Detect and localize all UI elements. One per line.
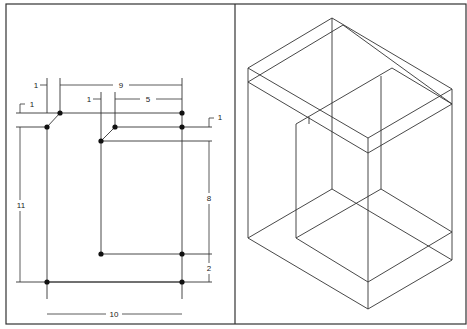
isometric-edge (332, 189, 452, 260)
isometric-edge (248, 238, 368, 309)
dimension-label: 1 (34, 81, 39, 90)
dimension-label: 11 (17, 201, 26, 210)
isometric-edge (368, 232, 452, 282)
drawing-frame (6, 4, 466, 324)
isometric-edge (392, 68, 452, 104)
dimension-label: 8 (207, 194, 212, 203)
dimension-label: 5 (146, 95, 151, 104)
dimension-label: 1 (87, 95, 92, 104)
vertex-dot (44, 279, 49, 284)
contour-line (101, 127, 115, 141)
dimension-label: 1 (30, 100, 35, 109)
dimension-label: 2 (207, 264, 212, 273)
vertex-dot (98, 138, 103, 143)
drawing-canvas: 951011821111 (0, 0, 467, 329)
vertex-dot (57, 110, 62, 115)
isometric-edge (296, 238, 368, 282)
vertex-dot (179, 279, 184, 284)
isometric-edge (248, 68, 368, 138)
isometric-edge (381, 189, 452, 232)
isometric-edge (248, 18, 332, 68)
dimension-label: 1 (218, 113, 223, 122)
isometric-view-panel (248, 18, 452, 309)
vertex-dot (44, 124, 49, 129)
vertex-dot (98, 251, 103, 256)
isometric-edge (296, 68, 392, 124)
vertex-dot (179, 110, 184, 115)
isometric-edge (248, 25, 343, 82)
contour-line (47, 113, 60, 127)
isometric-edge (368, 260, 452, 309)
dimension-label: 9 (119, 81, 124, 90)
vertex-dot (112, 124, 117, 129)
isometric-edge (332, 18, 452, 89)
isometric-edge (343, 25, 452, 104)
orthographic-view-panel: 951011821111 (15, 78, 223, 319)
vertex-dot (179, 124, 184, 129)
vertex-dot (179, 251, 184, 256)
dimension-label: 10 (110, 310, 119, 319)
isometric-edge (248, 189, 332, 238)
frame-border (6, 4, 466, 324)
